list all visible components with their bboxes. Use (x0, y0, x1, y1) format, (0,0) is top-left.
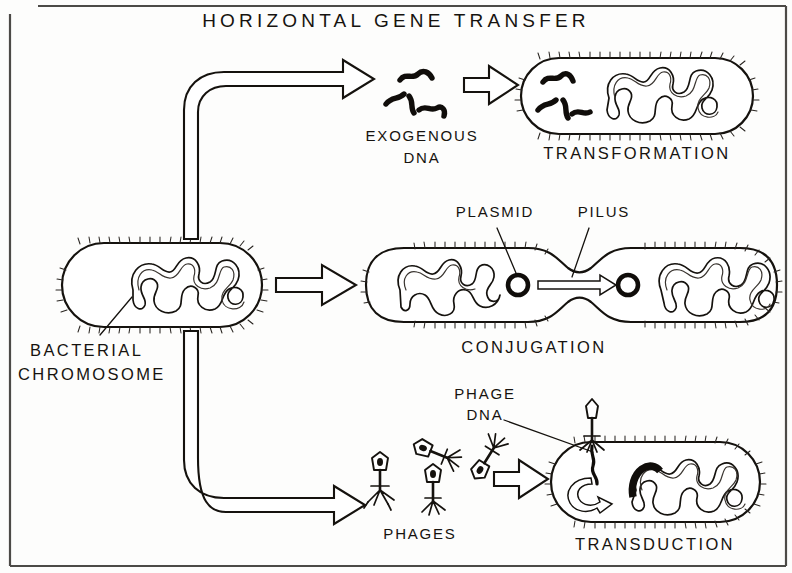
label-exogenous-dna-line1: EXOGENOUS (366, 127, 479, 144)
label-bacterial-chromosome-line1: BACTERIAL (30, 341, 143, 359)
phage-icon (364, 452, 394, 510)
arrow-to-transduction (184, 331, 365, 524)
conjugation-cell-pair (361, 242, 782, 328)
arrow-phages-to-transduced-cell (494, 460, 548, 498)
arrow-dna-to-transformed-cell (464, 66, 518, 104)
transformed-bacterium (515, 52, 759, 140)
label-phages: PHAGES (383, 525, 456, 542)
label-phage-dna-line1: PHAGE (454, 385, 516, 402)
diagram-canvas: HORIZONTAL GENE TRANSFER BACTERIAL CHROM… (0, 0, 792, 573)
phage-group (364, 430, 510, 515)
figure-title: HORIZONTAL GENE TRANSFER (202, 10, 590, 31)
label-bacterial-chromosome-line2: CHROMOSOME (18, 365, 166, 383)
label-pilus: PILUS (578, 203, 630, 220)
label-conjugation: CONJUGATION (461, 338, 606, 356)
phage-icon (422, 464, 445, 515)
label-transformation: TRANSFORMATION (543, 144, 730, 162)
label-phage-dna-line2: DNA (466, 406, 503, 423)
arrow-to-conjugation (276, 265, 356, 305)
horizontal-gene-transfer-figure: HORIZONTAL GENE TRANSFER BACTERIAL CHROM… (0, 0, 792, 573)
phage-dna-leader-line (504, 420, 593, 452)
arrow-to-transformation (184, 60, 374, 239)
label-transduction: TRANSDUCTION (575, 535, 735, 553)
label-exogenous-dna-line2: DNA (403, 149, 440, 166)
label-plasmid: PLASMID (456, 203, 534, 220)
donor-bacterium (56, 237, 268, 335)
exogenous-dna-fragments (386, 71, 445, 116)
transduced-bacterium (545, 399, 766, 528)
